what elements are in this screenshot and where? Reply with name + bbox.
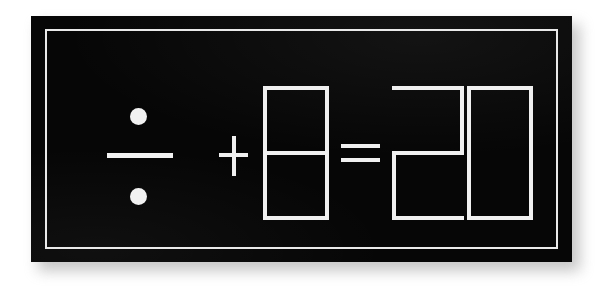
- digit-two-middle-segment: [392, 151, 464, 155]
- equals-bar-bottom: [341, 158, 380, 162]
- screenshot-root: [0, 0, 606, 287]
- digit-zero-glyph: [467, 86, 533, 220]
- division-bar: [107, 153, 173, 158]
- black-sign-plaque: [31, 16, 572, 262]
- digit-two-upper-right-segment: [460, 86, 464, 155]
- division-dot-top: [130, 108, 147, 125]
- equation-display: [31, 16, 572, 262]
- division-sign-icon: [107, 90, 173, 223]
- digit-two-lower-left-segment: [392, 151, 396, 220]
- digit-two-top-segment: [392, 86, 464, 90]
- digit-eight-middle-bar: [263, 151, 329, 155]
- equals-bar-top: [341, 144, 380, 148]
- plus-vertical-stroke: [232, 136, 236, 176]
- equals-sign-icon: [341, 144, 380, 166]
- digit-two-bottom-segment: [392, 216, 464, 220]
- digit-eight-glyph: [263, 86, 329, 220]
- plus-sign-icon: [219, 136, 248, 176]
- digit-two-glyph: [392, 86, 464, 220]
- division-dot-bottom: [130, 188, 147, 205]
